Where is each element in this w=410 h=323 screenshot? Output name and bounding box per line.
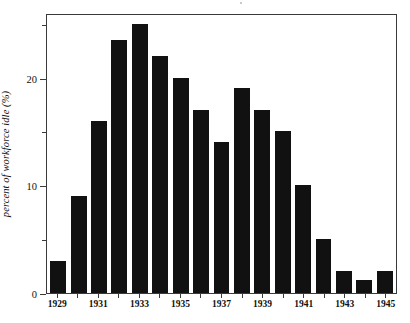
x-axis-tick [262, 294, 263, 298]
x-axis-tick-slot [211, 294, 232, 298]
bar [193, 110, 209, 293]
x-axis-label-slot: 1941 [293, 299, 314, 315]
bar [132, 24, 148, 293]
y-axis-tick-major [40, 186, 46, 187]
x-axis-tick-label: 1943 [335, 299, 354, 309]
x-axis-tick [200, 294, 201, 298]
bar-slot [313, 15, 333, 293]
x-axis-tick-label: 1941 [294, 299, 313, 309]
x-axis-tick-slot [334, 294, 355, 298]
bar [50, 261, 66, 293]
x-axis-tick-label: 1929 [48, 299, 67, 309]
bar-slot [293, 15, 313, 293]
bar [234, 88, 250, 293]
bar [111, 40, 127, 293]
bar [377, 271, 393, 293]
bar-slot [191, 15, 211, 293]
x-axis-label-slot: 1932 [109, 299, 130, 315]
x-axis-tick [303, 294, 304, 298]
x-axis-label-slot: 1944 [355, 299, 376, 315]
bar [356, 280, 372, 293]
y-axis-title: percent of workforce idle (%) [0, 14, 12, 294]
plot-frame [46, 14, 397, 294]
bar-slot [334, 15, 354, 293]
x-axis-tick [385, 294, 386, 298]
bar-slot [354, 15, 374, 293]
bar [173, 78, 189, 293]
x-axis-label-slot: 1934 [150, 299, 171, 315]
bar-slot [211, 15, 231, 293]
x-axis-tick [118, 294, 119, 298]
x-axis-labels: 1929193019311932193319341935193619371938… [46, 299, 397, 315]
x-axis-label-slot: 1938 [232, 299, 253, 315]
bar-slot [130, 15, 150, 293]
x-axis-tick [57, 294, 58, 298]
x-axis-tick [180, 294, 181, 298]
bar-slot [375, 15, 395, 293]
x-axis-label-slot: 1937 [211, 299, 232, 315]
x-axis-tick [159, 294, 160, 298]
bar-slot [272, 15, 292, 293]
stray-speck [240, 2, 242, 4]
bar-slot [89, 15, 109, 293]
bar-slot [252, 15, 272, 293]
x-axis-label-slot: 1935 [170, 299, 191, 315]
x-axis-tick-slot [293, 294, 314, 298]
x-axis-tick-slot [170, 294, 191, 298]
x-axis-tick [324, 294, 325, 298]
x-axis-tick-slot [129, 294, 150, 298]
x-axis-label-slot: 1942 [314, 299, 335, 315]
bar [254, 110, 270, 293]
y-axis-tick-minor [42, 132, 46, 133]
x-axis-label-slot: 1931 [88, 299, 109, 315]
bar [91, 121, 107, 293]
x-axis-label-slot: 1929 [47, 299, 68, 315]
y-axis-tick-minor [42, 240, 46, 241]
x-axis-tick-slot [68, 294, 89, 298]
x-axis-tick-label: 1935 [171, 299, 190, 309]
x-axis-tick-label: 1937 [212, 299, 231, 309]
x-axis-tick-label: 1931 [89, 299, 108, 309]
bars-area [47, 15, 396, 293]
y-axis-tick-label: 0 [32, 289, 37, 300]
bar [316, 239, 332, 293]
y-axis-tick-minor [42, 25, 46, 26]
x-axis-label-slot: 1933 [129, 299, 150, 315]
x-axis-label-slot: 1939 [252, 299, 273, 315]
x-axis-tick [139, 294, 140, 298]
x-axis-tick-slot [314, 294, 335, 298]
x-axis-tick [98, 294, 99, 298]
x-axis-label-slot: 1936 [191, 299, 212, 315]
x-axis-tick-slot [191, 294, 212, 298]
y-axis-tick-label: 10 [27, 181, 38, 192]
bar [152, 56, 168, 293]
x-axis-tick-label: 1933 [130, 299, 149, 309]
x-axis-tick-slot [273, 294, 294, 298]
bar-slot [109, 15, 129, 293]
x-axis-tick-label: 1945 [376, 299, 395, 309]
y-axis-tick-label: 20 [27, 73, 38, 84]
bar-slot [150, 15, 170, 293]
bar [295, 185, 311, 293]
bar-slot [68, 15, 88, 293]
y-axis-tick-major [40, 79, 46, 80]
x-axis-tick-label: 1939 [253, 299, 272, 309]
x-axis-label-slot: 1945 [376, 299, 397, 315]
bar-slot [170, 15, 190, 293]
x-axis-tick [344, 294, 345, 298]
x-axis-tick [365, 294, 366, 298]
x-axis-tick-slot [88, 294, 109, 298]
bar [214, 142, 230, 293]
x-axis-ticks [46, 294, 397, 298]
x-axis-tick-slot [109, 294, 130, 298]
x-axis-tick-slot [150, 294, 171, 298]
x-axis: 1929193019311932193319341935193619371938… [46, 294, 397, 320]
x-axis-tick-slot [232, 294, 253, 298]
chart-figure: percent of workforce idle (%) 01020 1929… [0, 0, 410, 323]
x-axis-tick [77, 294, 78, 298]
bar-slot [232, 15, 252, 293]
bar-slot [48, 15, 68, 293]
x-axis-label-slot: 1930 [68, 299, 89, 315]
x-axis-tick-slot [355, 294, 376, 298]
x-axis-tick [283, 294, 284, 298]
